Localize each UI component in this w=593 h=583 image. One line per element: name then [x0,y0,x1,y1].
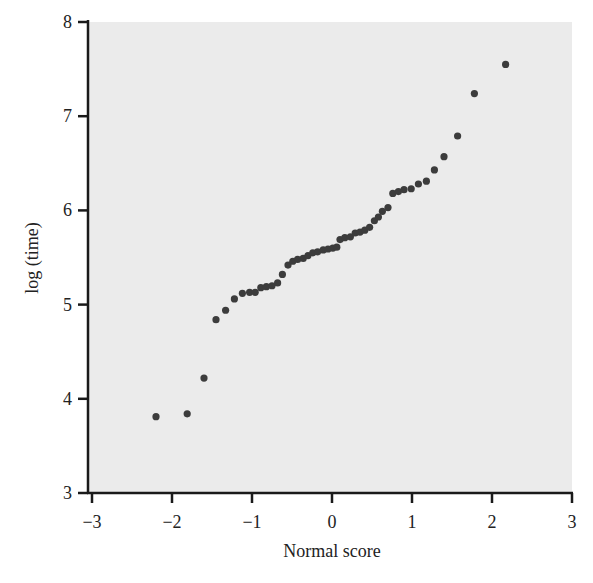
data-point [152,413,159,420]
y-tick-label: 8 [63,12,72,32]
x-tick-label: 0 [328,512,337,532]
y-tick-label: 3 [63,483,72,503]
data-point [408,185,415,192]
data-point [200,374,207,381]
x-tick-label: 2 [488,512,497,532]
x-axis-ticks: −3−2−10123 [82,493,576,532]
data-point [231,295,238,302]
plot-area-background [88,22,572,493]
data-point [212,316,219,323]
y-tick-label: 7 [63,106,72,126]
data-point [440,153,447,160]
data-point [279,271,286,278]
data-point [400,186,407,193]
data-point [222,307,229,314]
y-tick-label: 6 [63,200,72,220]
data-point [415,180,422,187]
data-point [384,204,391,211]
x-tick-label: −3 [82,512,101,532]
x-tick-label: 1 [408,512,417,532]
data-point [274,279,281,286]
data-point [423,178,430,185]
data-point [502,61,509,68]
y-tick-label: 4 [63,389,72,409]
data-point [333,244,340,251]
y-axis-ticks: 345678 [63,12,88,503]
x-tick-label: −2 [162,512,181,532]
x-tick-label: 3 [568,512,577,532]
y-tick-label: 5 [63,295,72,315]
data-point [239,290,246,297]
x-axis-label: Normal score [283,541,380,561]
data-point [184,410,191,417]
data-point [454,132,461,139]
x-tick-label: −1 [242,512,261,532]
y-axis-label: log (time) [22,222,43,293]
data-point [471,90,478,97]
normal-quantile-plot: 345678 −3−2−10123 Normal score log (time… [0,0,593,583]
data-point [431,166,438,173]
data-point [252,289,259,296]
data-point [366,224,373,231]
